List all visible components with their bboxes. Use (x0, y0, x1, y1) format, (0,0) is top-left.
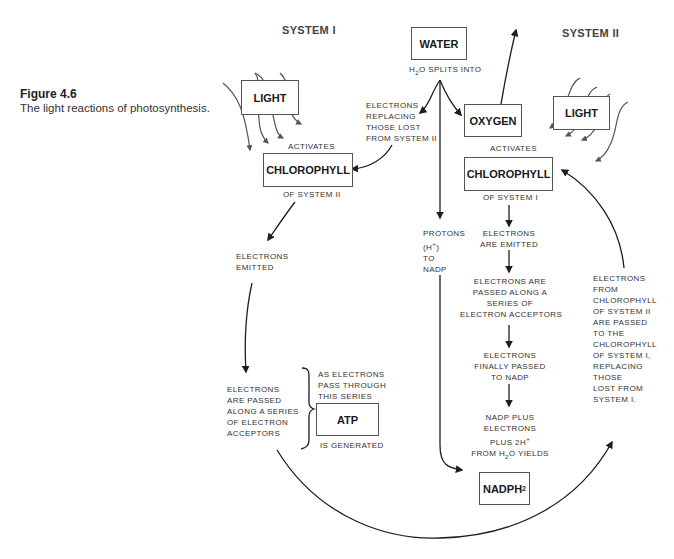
diagram-arrows (0, 0, 674, 559)
electrons-replacing-label: ELECTRONS REPLACING THOSE LOST FROM SYST… (366, 100, 437, 144)
electrons-from-chlorophyll-label: ELECTRONS FROM CHLOROPHYLL OF SYSTEM II … (593, 273, 657, 405)
h2o-splits-label: H2O SPLITS INTO (409, 64, 481, 79)
nadph2-box: NADPH2 (479, 472, 530, 505)
activates-label-left: ACTIVATES (288, 141, 335, 152)
electrons-emitted-right-label: ELECTRONS ARE EMITTED (474, 228, 544, 250)
electrons-passed-left-label: ELECTRONS ARE PASSED ALONG A SERIES OF E… (227, 384, 299, 439)
nadph2-main: NADPH (483, 483, 522, 495)
electrons-passed-right-label: ELECTRONS ARE PASSED ALONG A SERIES OF E… (460, 276, 560, 320)
nadp-plus-label: NADP PLUS ELECTRONS PLUS 2H+ FROM H2O YI… (466, 412, 554, 462)
is-generated-label: IS GENERATED (320, 440, 384, 451)
water-box: WATER (411, 27, 467, 60)
of-system-ii-label: OF SYSTEM II (283, 189, 341, 200)
nadph2-subscript: 2 (522, 485, 526, 492)
chlorophyll-box-system-i: CHLOROPHYLL (464, 157, 553, 191)
chlorophyll-box-system-ii: CHLOROPHYLL (263, 153, 353, 187)
electrons-finally-label: ELECTRONS FINALLY PASSED TO NADP (466, 350, 554, 383)
atp-box: ATP (316, 403, 379, 436)
light-box-right: LIGHT (553, 96, 610, 130)
light-box-left: LIGHT (241, 80, 299, 115)
oxygen-box: OXYGEN (464, 104, 522, 137)
activates-label-right: ACTIVATES (490, 143, 537, 154)
protons-label: PROTONS (H+) TO NADP (423, 228, 465, 275)
of-system-i-label: OF SYSTEM I (483, 192, 538, 203)
electrons-emitted-left-label: ELECTRONS EMITTED (236, 251, 289, 273)
as-electrons-label: AS ELECTRONS PASS THROUGH THIS SERIES (318, 369, 386, 402)
